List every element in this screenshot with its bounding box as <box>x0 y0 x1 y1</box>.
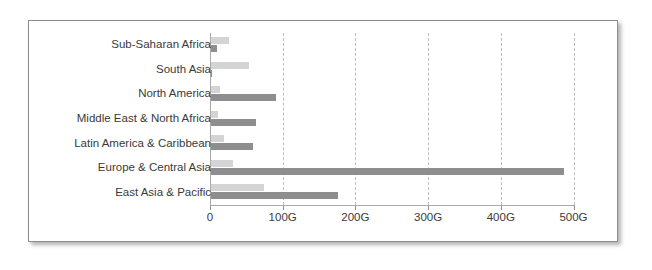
x-axis-tick-label: 300G <box>414 211 442 223</box>
x-gridline <box>501 33 502 205</box>
chart-frame: 0100G200G300G400G500GSub-Saharan AfricaS… <box>28 20 618 242</box>
bar-series-1-3[interactable] <box>211 111 218 118</box>
bar-series-1-1[interactable] <box>211 62 249 69</box>
category-label: Middle East & North Africa <box>1 112 211 124</box>
x-gridline <box>355 33 356 205</box>
x-axis-tick-label: 200G <box>341 211 369 223</box>
bar-series-1-2[interactable] <box>211 86 220 93</box>
x-axis-line <box>210 205 574 206</box>
x-axis-tick-label: 100G <box>269 211 297 223</box>
category-label: Europe & Central Asia <box>1 161 211 173</box>
bar-series-2-1[interactable] <box>211 70 212 77</box>
bar-series-1-4[interactable] <box>211 135 224 142</box>
x-axis-tick <box>574 205 575 210</box>
category-label: North America <box>1 87 211 99</box>
x-axis-tick-label: 0 <box>207 211 213 223</box>
bar-series-2-6[interactable] <box>211 192 338 199</box>
category-label: South Asia <box>1 63 211 75</box>
x-axis-tick-label: 500G <box>559 211 587 223</box>
x-axis-tick-label: 400G <box>487 211 515 223</box>
bar-series-2-3[interactable] <box>211 119 256 126</box>
bar-series-2-2[interactable] <box>211 94 276 101</box>
bar-series-1-0[interactable] <box>211 37 229 44</box>
category-label: Latin America & Caribbean <box>1 137 211 149</box>
category-label: Sub-Saharan Africa <box>1 38 211 50</box>
bar-series-2-0[interactable] <box>211 45 217 52</box>
x-gridline <box>574 33 575 205</box>
bar-series-2-5[interactable] <box>211 168 564 175</box>
chart-plot-area: 0100G200G300G400G500GSub-Saharan AfricaS… <box>29 21 619 243</box>
bar-series-1-6[interactable] <box>211 184 264 191</box>
bar-series-1-5[interactable] <box>211 160 233 167</box>
category-label: East Asia & Pacific <box>1 186 211 198</box>
x-gridline <box>428 33 429 205</box>
x-gridline <box>283 33 284 205</box>
bar-series-2-4[interactable] <box>211 143 253 150</box>
